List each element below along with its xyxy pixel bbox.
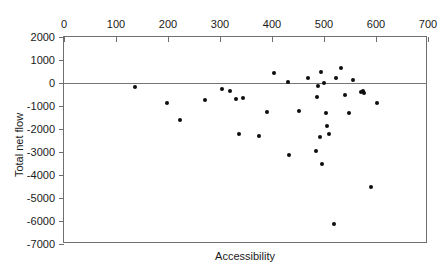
x-axis-tick	[376, 37, 377, 42]
y-axis-tick-label: -4000	[27, 170, 55, 181]
x-axis-tick	[168, 37, 169, 42]
data-point	[320, 162, 324, 166]
y-axis-tick	[59, 152, 64, 153]
x-axis-tick-label: 100	[107, 19, 125, 30]
data-point	[315, 95, 319, 99]
data-point	[286, 80, 290, 84]
x-axis-tick	[428, 37, 429, 42]
data-point	[318, 135, 322, 139]
data-point	[362, 91, 366, 95]
data-point	[334, 76, 338, 80]
data-point	[257, 134, 261, 138]
data-point	[133, 85, 137, 89]
x-axis-tick	[64, 37, 65, 42]
data-point	[327, 132, 331, 136]
y-axis-tick	[59, 244, 64, 245]
y-axis-tick-label: 2000	[31, 32, 55, 43]
data-point	[203, 98, 207, 102]
x-axis-tick	[272, 37, 273, 42]
data-point	[306, 76, 310, 80]
y-axis-tick-label: -1000	[27, 101, 55, 112]
x-axis-tick-label: 400	[263, 19, 281, 30]
data-point	[314, 149, 318, 153]
data-point	[220, 87, 224, 91]
y-axis-tick	[59, 60, 64, 61]
x-axis-tick-label: 300	[211, 19, 229, 30]
y-axis-tick-label: 1000	[31, 55, 55, 66]
data-point	[165, 101, 169, 105]
x-axis-tick	[324, 37, 325, 42]
data-point	[287, 153, 291, 157]
data-point	[237, 132, 241, 136]
y-axis-tick	[59, 106, 64, 107]
data-point	[272, 71, 276, 75]
y-axis-tick	[59, 198, 64, 199]
x-axis-tick-label: 600	[367, 19, 385, 30]
data-point	[347, 111, 351, 115]
data-point	[265, 110, 269, 114]
data-point	[351, 78, 355, 82]
y-axis-tick	[59, 175, 64, 176]
data-point	[241, 96, 245, 100]
y-axis-tick	[59, 221, 64, 222]
x-axis-tick-label: 500	[315, 19, 333, 30]
y-axis-tick-label: 0	[49, 78, 55, 89]
data-point	[339, 66, 343, 70]
data-point	[343, 93, 347, 97]
plot-area: 0100200300400500600700200010000-1000-200…	[64, 37, 426, 242]
y-axis-tick-label: -7000	[27, 239, 55, 250]
y-axis-title: Total net flow	[13, 80, 25, 210]
x-axis-tick-label: 200	[159, 19, 177, 30]
y-axis-tick-label: -2000	[27, 124, 55, 135]
data-point	[375, 101, 379, 105]
data-point	[332, 222, 336, 226]
data-point	[322, 81, 326, 85]
zero-reference-line	[64, 83, 426, 84]
data-point	[316, 84, 320, 88]
data-point	[324, 111, 328, 115]
data-point	[325, 124, 329, 128]
data-point	[297, 109, 301, 113]
data-point	[319, 70, 323, 74]
data-point	[178, 118, 182, 122]
x-axis-tick	[220, 37, 221, 42]
x-axis-title: Accessibility	[63, 250, 427, 262]
y-axis-tick	[59, 37, 64, 38]
data-point	[369, 185, 373, 189]
y-axis-tick-label: -6000	[27, 216, 55, 227]
x-axis-tick	[116, 37, 117, 42]
data-point	[234, 97, 238, 101]
x-axis-tick-label: 700	[419, 19, 437, 30]
x-axis-tick-label: 0	[61, 19, 67, 30]
y-axis-tick-label: -5000	[27, 193, 55, 204]
scatter-plot-figure: 0100200300400500600700200010000-1000-200…	[0, 0, 443, 277]
y-axis-tick	[59, 129, 64, 130]
data-point	[228, 89, 232, 93]
y-axis-tick-label: -3000	[27, 147, 55, 158]
plot-frame: 0100200300400500600700200010000-1000-200…	[63, 36, 427, 243]
